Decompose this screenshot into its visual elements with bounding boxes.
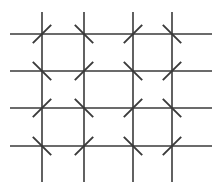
figure-root [0,0,224,192]
lattice-diagram [0,0,224,192]
figure-background [0,0,224,192]
